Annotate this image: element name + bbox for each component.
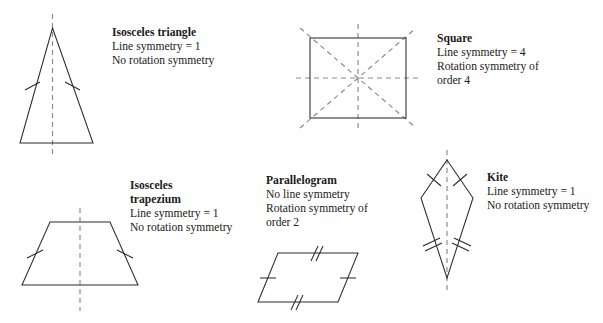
square-line-symmetry: Line symmetry = 4 (437, 46, 539, 60)
parallelogram-line-symmetry: No line symmetry (266, 188, 368, 202)
square-rotation-symmetry-order: order 4 (437, 74, 539, 88)
figure-isosceles-triangle (20, 14, 93, 158)
label-parallelogram: Parallelogram No line symmetry Rotation … (266, 174, 368, 230)
isosceles-triangle-tick-left (25, 82, 40, 90)
isosceles-triangle-outline (20, 28, 93, 143)
kite-tick-upper-right (453, 174, 467, 186)
square-title: Square (437, 32, 539, 46)
isosceles-trapezium-line-symmetry: Line symmetry = 1 (130, 207, 232, 221)
kite-line-symmetry: Line symmetry = 1 (487, 185, 589, 199)
figure-square (296, 24, 420, 132)
isosceles-trapezium-title-line-2: trapezium (130, 193, 232, 207)
isosceles-triangle-line-symmetry: Line symmetry = 1 (112, 40, 214, 54)
label-isosceles-triangle: Isosceles triangle Line symmetry = 1 No … (112, 26, 214, 68)
kite-title: Kite (487, 171, 589, 185)
isosceles-triangle-title: Isosceles triangle (112, 26, 214, 40)
isosceles-triangle-tick-right (65, 82, 80, 90)
kite-rotation-symmetry: No rotation symmetry (487, 199, 589, 213)
isosceles-trapezium-rotation-symmetry: No rotation symmetry (130, 221, 232, 235)
figure-parallelogram (258, 246, 358, 310)
figure-kite (421, 150, 473, 292)
square-rotation-symmetry: Rotation symmetry of (437, 60, 539, 74)
parallelogram-rotation-symmetry: Rotation symmetry of (266, 202, 368, 216)
isosceles-trapezium-title-line-1: Isosceles (130, 179, 232, 193)
label-kite: Kite Line symmetry = 1 No rotation symme… (487, 171, 589, 213)
parallelogram-rotation-symmetry-order: order 2 (266, 216, 368, 230)
parallelogram-title: Parallelogram (266, 174, 368, 188)
isosceles-triangle-rotation-symmetry: No rotation symmetry (112, 54, 214, 68)
label-square: Square Line symmetry = 4 Rotation symmet… (437, 32, 539, 88)
label-isosceles-trapezium: Isosceles trapezium Line symmetry = 1 No… (130, 179, 232, 235)
figure-isosceles-trapezium (22, 208, 138, 311)
kite-tick-upper-left (427, 174, 441, 186)
